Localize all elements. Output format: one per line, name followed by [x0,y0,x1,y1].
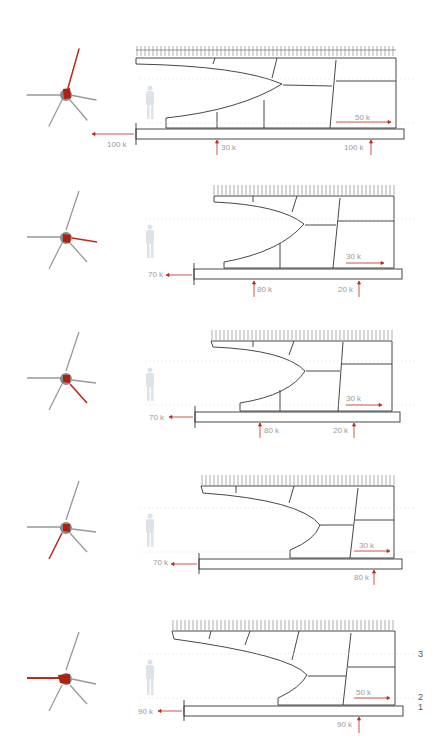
structure [195,341,400,428]
inner-force-label: 50 k [355,113,370,122]
person-silhouette [146,514,154,548]
mid-reaction-label: 80 k [257,285,272,294]
level-label-1: 1 [418,702,423,712]
person-silhouette [146,368,154,402]
level-label-2: 2 [418,692,423,702]
ceiling-hatch [136,46,396,56]
left-force-label: 90 k [138,707,153,716]
mid-reaction-label: 80 k [264,426,279,435]
left-force-label: 70 k [153,558,168,567]
structure [199,486,402,574]
level-label-3: 3 [418,649,423,659]
person-silhouette [146,86,154,120]
panel-3: 70 k 80 k 20 k 30 k [0,300,439,440]
right-reaction-label: 20 k [333,426,348,435]
right-reaction-label: 80 k [354,573,369,582]
inner-force-label: 30 k [346,394,361,403]
panel-1: 100 k 30 k 100 k 50 k [0,0,439,160]
inner-force-label: 50 k [356,688,371,697]
inner-force-label: 30 k [359,541,374,550]
right-reaction-label: 20 k [338,285,353,294]
left-force-label: 100 k [107,140,127,149]
force-arrows [158,697,390,734]
ceiling-hatch [173,620,393,630]
ceiling-hatch [214,185,394,195]
structure [136,58,404,145]
section-diagram-5 [0,590,439,742]
person-silhouette [146,225,154,259]
left-force-label: 70 k [148,270,163,279]
node-icon [27,481,96,559]
ceiling-hatch [202,475,394,485]
section-diagram-3 [0,300,439,440]
right-reaction-label: 90 k [337,720,352,729]
panel-2: 70 k 80 k 20 k 30 k [0,150,439,300]
structure [172,631,403,721]
section-diagram-4 [0,440,439,590]
structure [194,196,402,285]
panel-5: 90 k 90 k 50 k 3 2 1 [0,590,439,742]
section-diagram-2 [0,150,439,300]
inner-force-label: 30 k [346,252,361,261]
node-icon [27,332,96,410]
section-diagram-1 [0,0,439,160]
left-force-label: 70 k [149,413,164,422]
node-icon [27,49,96,126]
node-icon [27,191,97,269]
person-silhouette [146,660,154,696]
ceiling-hatch [212,330,392,340]
dashed-level-lines [140,654,415,698]
panel-4: 70 k 80 k 30 k [0,440,439,590]
node-icon [27,632,96,711]
